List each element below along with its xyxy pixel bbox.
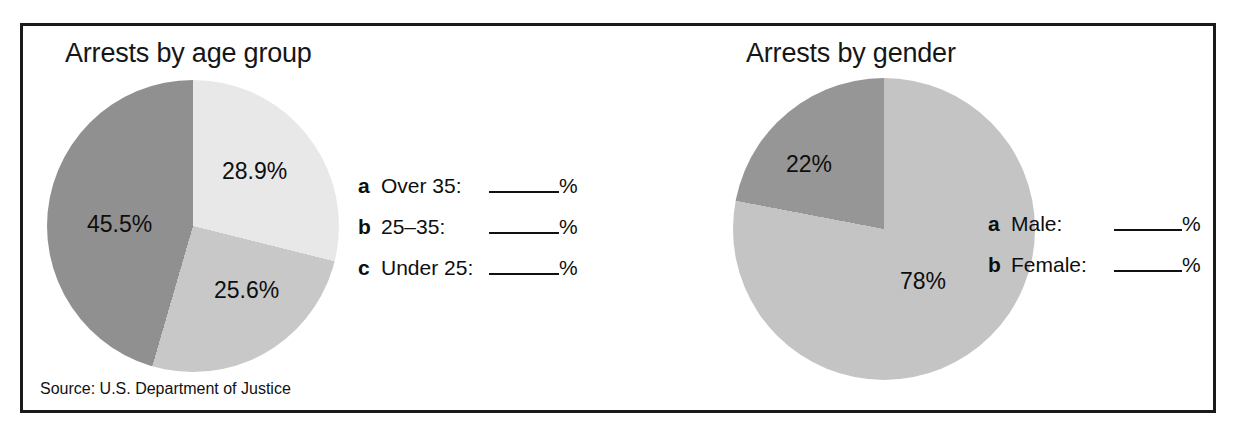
pie-slice-label-25-35: 25.6%	[214, 279, 279, 302]
pie-slice-label-under-25: 45.5%	[87, 213, 152, 236]
answer-blank-female[interactable]	[1114, 257, 1182, 272]
legend-label-25-35: 25–35:	[381, 215, 489, 239]
legend-unit-over-35: %	[559, 174, 578, 198]
pie-slice-label-male: 78%	[900, 270, 946, 293]
legend-item-25-35: b 25–35: %	[358, 215, 578, 256]
chart-title-gender: Arrests by gender	[746, 40, 956, 67]
legend-label-over-35: Over 35:	[381, 174, 489, 198]
legend-unit-25-35: %	[559, 215, 578, 239]
chart-title-age-group: Arrests by age group	[65, 40, 312, 67]
legend-unit-under-25: %	[559, 256, 578, 280]
pie-slice-label-female: 22%	[786, 153, 832, 176]
legend-key-c: c	[358, 256, 381, 280]
answer-blank-25-35[interactable]	[489, 219, 559, 234]
legend-label-male: Male:	[1011, 212, 1114, 236]
legend-item-under-25: c Under 25: %	[358, 256, 578, 297]
source-note: Source: U.S. Department of Justice	[40, 381, 291, 397]
legend-item-over-35: a Over 35: %	[358, 174, 578, 215]
figure-frame: Arrests by age group 28.9% 25.6% 45.5% a…	[20, 23, 1216, 413]
chart-panel-age-group: Arrests by age group 28.9% 25.6% 45.5% a…	[23, 26, 643, 410]
legend-label-female: Female:	[1011, 253, 1114, 277]
legend-age-group: a Over 35: % b 25–35: % c Under 25: %	[358, 174, 578, 297]
legend-unit-female: %	[1182, 253, 1201, 277]
legend-item-male: a Male: %	[988, 212, 1201, 253]
legend-key-a: a	[358, 174, 381, 198]
chart-panel-gender: Arrests by gender 78% 22% a Male: % b Fe…	[643, 26, 1216, 410]
answer-blank-under-25[interactable]	[489, 260, 559, 275]
legend-key-b: b	[358, 215, 381, 239]
answer-blank-over-35[interactable]	[489, 178, 559, 193]
answer-blank-male[interactable]	[1114, 216, 1182, 231]
legend-unit-male: %	[1182, 212, 1201, 236]
legend-key-a: a	[988, 212, 1011, 236]
legend-item-female: b Female: %	[988, 253, 1201, 294]
pie-slice-label-over-35: 28.9%	[222, 160, 287, 183]
legend-label-under-25: Under 25:	[381, 256, 489, 280]
legend-key-b: b	[988, 253, 1011, 277]
legend-gender: a Male: % b Female: %	[988, 212, 1201, 294]
